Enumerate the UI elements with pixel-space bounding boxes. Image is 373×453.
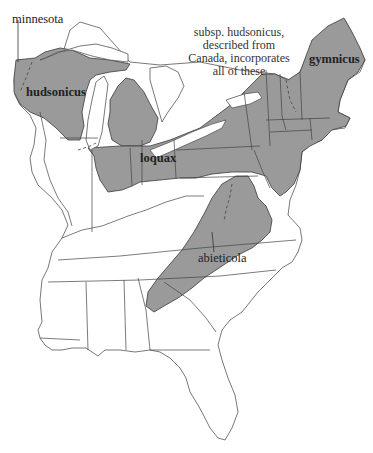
label-minnesota: minnesota — [12, 13, 63, 26]
label-gymnicus: gymnicus — [309, 53, 360, 66]
label-loquax: loquax — [140, 152, 176, 165]
label-abieticola: abieticola — [198, 252, 247, 265]
annotation-note: subsp. hudsonicus, described from Canada… — [164, 26, 314, 78]
label-hudsonicus: hudsonicus — [26, 86, 86, 99]
note-line-4: all of these — [164, 65, 314, 78]
